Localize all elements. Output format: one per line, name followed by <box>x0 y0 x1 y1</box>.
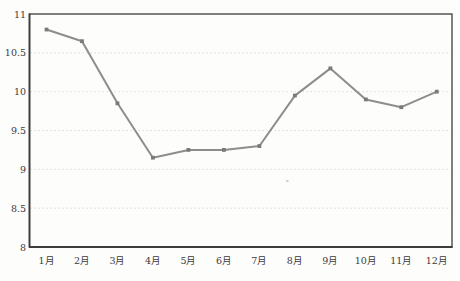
data-point-marker <box>435 90 439 94</box>
y-tick-label: 9 <box>20 164 26 175</box>
data-point-marker <box>151 156 155 160</box>
line-chart: 88.599.51010.5111月2月3月4月5月6月7月8月9月10月11月… <box>0 0 460 281</box>
x-tick-label: 12月 <box>426 255 448 266</box>
x-tick-label: 8月 <box>287 255 303 266</box>
x-tick-label: 1月 <box>38 255 54 266</box>
x-tick-label: 11月 <box>390 255 412 266</box>
y-tick-label: 10.5 <box>5 47 26 58</box>
data-point-marker <box>293 94 297 98</box>
data-point-marker <box>222 148 226 152</box>
data-point-marker <box>328 66 332 70</box>
plot-area <box>30 14 453 247</box>
data-point-marker <box>187 148 191 152</box>
y-tick-label: 10 <box>14 86 26 97</box>
x-tick-label: 5月 <box>180 255 196 266</box>
data-point-marker <box>257 144 261 148</box>
chart-canvas: 88.599.51010.5111月2月3月4月5月6月7月8月9月10月11月… <box>0 0 460 281</box>
y-tick-label: 9.5 <box>11 125 26 136</box>
data-point-marker <box>45 28 49 32</box>
data-point-marker <box>364 98 368 102</box>
y-tick-label: 8.5 <box>11 203 26 214</box>
y-tick-label: 11 <box>14 9 26 20</box>
x-tick-label: 3月 <box>109 255 125 266</box>
data-point-marker <box>399 105 403 109</box>
data-point-marker <box>80 39 84 43</box>
scan-speck <box>286 180 289 182</box>
x-tick-label: 2月 <box>74 255 90 266</box>
data-point-marker <box>116 101 120 105</box>
x-tick-label: 6月 <box>216 255 232 266</box>
x-tick-label: 7月 <box>251 255 267 266</box>
x-tick-label: 9月 <box>322 255 338 266</box>
x-tick-label: 4月 <box>145 255 161 266</box>
x-tick-label: 10月 <box>355 255 377 266</box>
y-tick-label: 8 <box>20 242 26 253</box>
